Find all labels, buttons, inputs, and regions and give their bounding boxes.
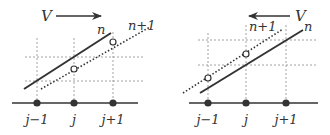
node-j-plus-1-left xyxy=(109,99,116,106)
node-label-j-left: j xyxy=(69,112,76,127)
open-node-j-left xyxy=(71,66,77,72)
node-j-right xyxy=(242,99,249,106)
line-n-label-right: n xyxy=(304,19,312,34)
open-node-j-right xyxy=(243,51,249,57)
grid-lines-left xyxy=(25,32,145,102)
node-label-j-minus-1-right: j−1 xyxy=(193,112,219,127)
profile-line-n-right xyxy=(200,30,303,93)
profile-line-n1-right xyxy=(183,29,283,93)
node-j-minus-1-right xyxy=(204,99,211,106)
profile-line-n1-left xyxy=(41,27,150,89)
open-node-j-minus-1-right xyxy=(205,75,211,81)
grid-lines-right xyxy=(198,25,318,102)
node-label-j-minus-1-left: j−1 xyxy=(22,112,48,127)
node-label-j-plus-1-right: j+1 xyxy=(271,112,297,127)
velocity-label-left: V xyxy=(41,7,54,25)
node-j-left xyxy=(70,99,77,106)
open-node-j-plus-1-left xyxy=(110,39,116,45)
node-label-j-plus-1-left: j+1 xyxy=(98,112,124,127)
node-label-j-right: j xyxy=(241,112,248,127)
node-j-minus-1-left xyxy=(33,99,40,106)
line-n-label-left: n xyxy=(97,22,105,37)
line-n1-label-right: n+1 xyxy=(249,19,277,34)
upwind-scheme-diagram: V n n+1 j−1 j j+1 V xyxy=(0,0,330,135)
node-j-plus-1-right xyxy=(282,99,289,106)
panel-right: V n+1 n j−1 j j+1 xyxy=(183,7,318,127)
panel-left: V n n+1 j−1 j j+1 xyxy=(12,7,156,127)
line-n1-label-left: n+1 xyxy=(128,18,156,33)
